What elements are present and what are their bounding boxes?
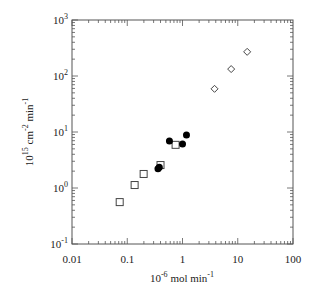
- plot-frame: [72, 20, 293, 244]
- x-tick-label: 0.1: [120, 253, 134, 265]
- x-tick-labels: 0.010.1110100: [62, 253, 301, 265]
- square-marker: [131, 182, 138, 189]
- y-tick-label: 103: [53, 12, 68, 26]
- x-tick-label: 1: [180, 253, 186, 265]
- y-tick-label: 102: [53, 68, 68, 82]
- square-marker: [140, 170, 147, 177]
- square-marker: [116, 199, 123, 206]
- diamond-marker: [211, 85, 218, 92]
- filled-circle-marker: [156, 164, 163, 171]
- x-tick-label: 100: [285, 253, 302, 265]
- y-tick-label: 100: [53, 180, 68, 194]
- x-tick-label: 10: [232, 253, 244, 265]
- filled-circle-marker: [179, 141, 186, 148]
- square-marker: [172, 141, 179, 148]
- data-points: [116, 48, 250, 205]
- filled-circle-marker: [183, 132, 190, 139]
- axis-ticks: [72, 20, 293, 244]
- diamond-marker: [244, 48, 251, 55]
- diamond-marker: [228, 66, 235, 73]
- x-tick-label: 0.01: [62, 253, 81, 265]
- y-axis-title: 1015 cm-2 min-1: [21, 98, 35, 166]
- filled-circle-marker: [166, 138, 173, 145]
- y-tick-labels: 10-1100101102103: [50, 12, 68, 250]
- x-axis-title: 10-6 mol min-1: [150, 270, 214, 284]
- y-tick-label: 101: [53, 124, 68, 138]
- scatter-chart: 0.010.1110100 10-1100101102103 10-6 mol …: [0, 0, 315, 297]
- y-tick-label: 10-1: [50, 236, 68, 250]
